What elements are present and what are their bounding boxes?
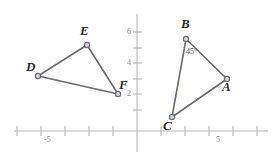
triangle-DEF xyxy=(35,42,120,96)
vertex-marker-E xyxy=(84,42,89,47)
y-tick-label-4: 4 xyxy=(127,59,131,67)
vertex-label-E: E xyxy=(80,24,89,37)
y-tick-label-6: 6 xyxy=(127,28,131,36)
triangle-ABC xyxy=(169,36,229,119)
vertex-label-B: B xyxy=(181,17,190,30)
coordinate-plane xyxy=(0,0,274,161)
geometry-figure: A B C D E F 45° -5 5 2 4 6 xyxy=(0,0,274,161)
vertex-label-C: C xyxy=(163,119,172,132)
triangle-DEF-outline xyxy=(38,45,118,94)
x-tick-label-neg5: -5 xyxy=(44,136,51,144)
vertex-label-A: A xyxy=(222,80,231,93)
x-tick-label-pos5: 5 xyxy=(216,136,220,144)
vertex-label-D: D xyxy=(26,60,35,73)
vertex-marker-B xyxy=(183,36,188,41)
vertex-marker-F xyxy=(115,91,120,96)
triangle-ABC-outline xyxy=(172,39,227,117)
angle-label-B: 45° xyxy=(186,48,197,56)
y-tick-label-2: 2 xyxy=(127,90,131,98)
vertex-marker-D xyxy=(35,73,40,78)
